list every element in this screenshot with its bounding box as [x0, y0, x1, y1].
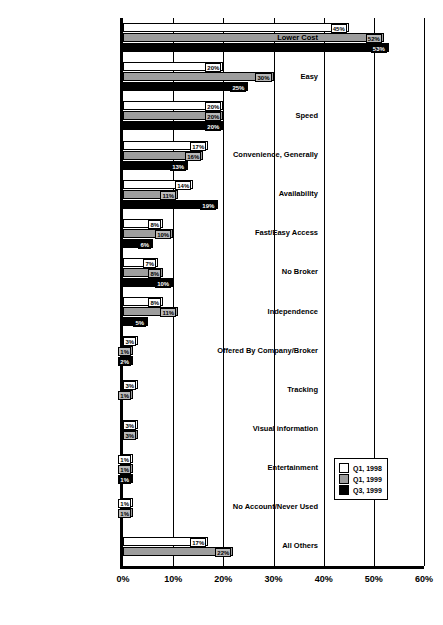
- bar: 10%: [123, 229, 173, 238]
- legend-item: Q1, 1998: [339, 463, 382, 473]
- bar-value-label: 5%: [133, 318, 146, 327]
- bar-value-label: 1%: [118, 499, 131, 508]
- x-axis-tick-label: 60%: [415, 574, 433, 584]
- bar-value-label: 14%: [175, 181, 191, 190]
- bar: 1%: [123, 498, 133, 507]
- bar-value-label: 16%: [185, 152, 201, 161]
- bar-value-label: 22%: [215, 548, 231, 557]
- bar: 10%: [123, 278, 173, 287]
- bar-value-label: 8%: [148, 220, 161, 229]
- bar: 8%: [123, 268, 163, 277]
- y-axis-category-label: Offered By Company/Broker: [217, 346, 318, 355]
- bar: 3%: [123, 380, 138, 389]
- chart-legend: Q1, 1998 Q1, 1999 Q3, 1999: [334, 458, 388, 500]
- bar-value-label: 53%: [371, 44, 387, 53]
- bar: 3%: [123, 420, 138, 429]
- bar-value-label: 6%: [138, 240, 151, 249]
- bar: 20%: [123, 121, 223, 130]
- x-axis-tick-label: 10%: [164, 574, 182, 584]
- bar-value-label: 45%: [331, 24, 347, 33]
- bar-value-label: 3%: [123, 337, 136, 346]
- bar-chart: 45%52%53%20%30%25%20%20%20%17%16%13%14%1…: [0, 0, 443, 625]
- y-axis-category-label: Fast/Easy Access: [255, 228, 318, 237]
- bar: 1%: [123, 474, 133, 483]
- bar: 1%: [123, 346, 133, 355]
- bar: 11%: [123, 307, 178, 316]
- bar-value-label: 1%: [118, 455, 131, 464]
- bar: 20%: [123, 62, 223, 71]
- bar-value-label: 30%: [255, 73, 271, 82]
- bar-value-label: 8%: [148, 298, 161, 307]
- x-axis-tick-label: 40%: [315, 574, 333, 584]
- y-axis-category-label: Tracking: [287, 385, 318, 394]
- bar-value-label: 10%: [155, 279, 171, 288]
- bar: 8%: [123, 297, 163, 306]
- x-axis-tick-label: 20%: [214, 574, 232, 584]
- bar: 52%: [123, 33, 384, 42]
- black-swatch-icon: [339, 485, 349, 495]
- bar-value-label: 1%: [118, 465, 131, 474]
- bar: 17%: [123, 537, 208, 546]
- bar: 11%: [123, 190, 178, 199]
- y-axis-category-label: Visual information: [253, 424, 318, 433]
- bar: 22%: [123, 547, 233, 556]
- gridline: [173, 18, 174, 566]
- bar: 1%: [123, 390, 133, 399]
- y-axis-category-label: All Others: [282, 541, 318, 550]
- bar: 2%: [123, 356, 133, 365]
- bar: 6%: [123, 239, 153, 248]
- x-axis-tick-label: 0%: [116, 574, 129, 584]
- bar-value-label: 7%: [143, 259, 156, 268]
- y-axis-category-label: Entertainment: [268, 463, 318, 472]
- bar: 17%: [123, 141, 208, 150]
- white-swatch-icon: [339, 463, 349, 473]
- bar-value-label: 20%: [205, 122, 221, 131]
- legend-item-label: Q3, 1999: [353, 487, 382, 494]
- y-axis-category-label: Availability: [279, 189, 318, 198]
- bar-value-label: 17%: [190, 538, 206, 547]
- bar: 13%: [123, 161, 188, 170]
- gridline: [424, 18, 425, 566]
- bar: 45%: [123, 23, 349, 32]
- grey-swatch-icon: [339, 474, 349, 484]
- legend-item-label: Q1, 1999: [353, 476, 382, 483]
- bar: 1%: [123, 454, 133, 463]
- bar: 3%: [123, 336, 138, 345]
- bar: 19%: [123, 200, 218, 209]
- bar-value-label: 3%: [123, 381, 136, 390]
- y-axis-category-label: No Broker: [282, 267, 318, 276]
- bar-value-label: 19%: [200, 201, 216, 210]
- legend-item: Q3, 1999: [339, 485, 382, 495]
- bar: 7%: [123, 258, 158, 267]
- bar-value-label: 1%: [118, 509, 131, 518]
- bar-value-label: 52%: [366, 34, 382, 43]
- x-axis-tick-label: 30%: [264, 574, 282, 584]
- bar-value-label: 1%: [118, 475, 131, 484]
- bar-value-label: 20%: [205, 112, 221, 121]
- bar: 16%: [123, 151, 203, 160]
- bar-value-label: 20%: [205, 63, 221, 72]
- bar-value-label: 3%: [123, 421, 136, 430]
- bar-value-label: 17%: [190, 142, 206, 151]
- gridline: [223, 18, 224, 566]
- bar-value-label: 11%: [160, 308, 176, 317]
- bar: 5%: [123, 317, 148, 326]
- y-axis-category-label: Convenience, Generally: [233, 150, 318, 159]
- bar: 14%: [123, 180, 193, 189]
- gridline: [324, 18, 325, 566]
- y-axis-category-label: Speed: [295, 111, 318, 120]
- bar-value-label: 25%: [230, 83, 246, 92]
- x-axis-tick-label: 50%: [365, 574, 383, 584]
- bar: 30%: [123, 72, 274, 81]
- bar-value-label: 10%: [155, 230, 171, 239]
- bar-value-label: 1%: [118, 347, 131, 356]
- bar-value-label: 8%: [148, 269, 161, 278]
- bar-value-label: 3%: [123, 431, 136, 440]
- bar: 8%: [123, 219, 163, 228]
- legend-item-label: Q1, 1998: [353, 465, 382, 472]
- y-axis-category-label: Lower Cost: [277, 33, 318, 42]
- y-axis-category-label: Easy: [300, 72, 318, 81]
- bar: 1%: [123, 508, 133, 517]
- bar-value-label: 1%: [118, 391, 131, 400]
- bar-value-label: 20%: [205, 102, 221, 111]
